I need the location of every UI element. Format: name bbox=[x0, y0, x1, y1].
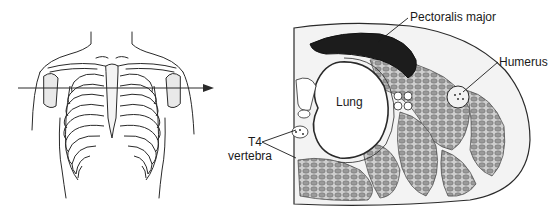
ribs-left bbox=[64, 74, 104, 180]
thorax-anterior-view bbox=[0, 0, 230, 219]
label-lung: Lung bbox=[336, 96, 363, 109]
rib-cage-illustration bbox=[0, 0, 230, 219]
lung-shape bbox=[313, 62, 388, 158]
ribs-right bbox=[120, 74, 160, 180]
label-humerus: Humerus bbox=[499, 56, 548, 69]
label-vertebra: vertebra bbox=[228, 150, 272, 163]
cross-section-illustration bbox=[230, 0, 558, 219]
thorax-cross-section: Pectoralis major Humerus Lung T4 vertebr… bbox=[230, 0, 558, 219]
label-pectoralis-major: Pectoralis major bbox=[410, 11, 496, 24]
label-t4: T4 bbox=[248, 136, 262, 149]
